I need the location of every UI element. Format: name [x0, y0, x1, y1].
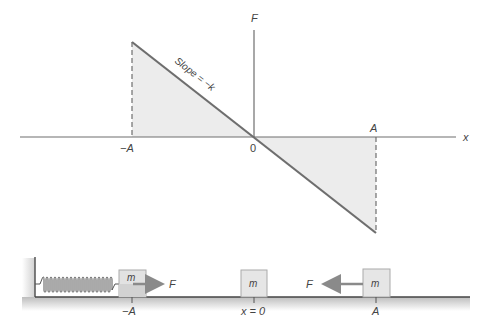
- x-axis-label: x: [462, 131, 469, 143]
- force-label-left-arrow: F: [306, 278, 314, 290]
- f-axis-label: F: [251, 12, 259, 24]
- mass-label-neg-a: m: [127, 272, 135, 283]
- neg-a-label: −A: [120, 142, 134, 154]
- origin-label: 0: [250, 142, 256, 154]
- spring: [35, 277, 119, 292]
- position-label-neg-a: −A: [122, 305, 136, 317]
- spring-mass-system: m F −A m x = 0 m F A: [22, 257, 470, 317]
- mass-label-equilibrium: m: [249, 278, 257, 289]
- position-label-pos-a: A: [371, 305, 379, 317]
- force-displacement-graph: F x 0 −A A Slope = −k: [20, 12, 469, 233]
- wall-shade: [22, 258, 35, 298]
- force-label-right-arrow: F: [169, 278, 177, 290]
- mass-label-pos-a: m: [371, 278, 379, 289]
- pos-a-label: A: [369, 122, 377, 134]
- mass-block-neg-a-lower: [119, 284, 146, 297]
- position-label-zero: x = 0: [240, 305, 266, 317]
